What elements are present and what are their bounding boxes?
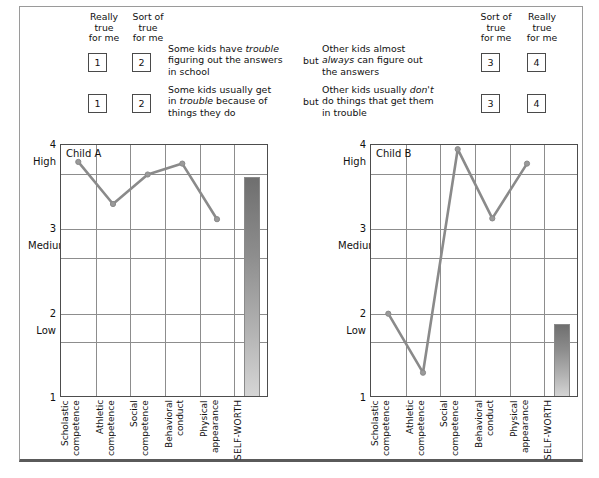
x-axis-label-1: Athletic competence <box>405 400 440 476</box>
data-point-0 <box>386 311 391 316</box>
item-2-left-stem: Some kids usually get in trouble because… <box>168 84 296 118</box>
chart-a-plot-area: Child A <box>60 144 268 397</box>
chart-a-y-axis: 1234HighMediumLow <box>30 144 60 397</box>
scale-header-sort-of-true-right: Sort of true for me <box>475 12 517 44</box>
response-box-1-item2[interactable]: 1 <box>88 94 107 113</box>
data-point-4 <box>524 161 529 166</box>
scale-header-really-true-left: Really true for me <box>84 12 124 44</box>
data-point-2 <box>145 172 150 177</box>
data-point-0 <box>76 159 81 164</box>
profile-line-series <box>371 145 578 397</box>
x-axis-label-4: Physical appearance <box>509 400 544 476</box>
x-axis-label-5: SELF-WORTH <box>543 400 578 476</box>
data-point-2 <box>455 147 460 152</box>
chart-a-title: Child A <box>66 148 101 159</box>
response-box-3-item2[interactable]: 3 <box>481 94 500 113</box>
chart-b-x-axis: Scholastic competenceAthletic competence… <box>370 400 578 478</box>
item-1-right-stem: Other kids almost always can figure out … <box>322 43 440 77</box>
data-point-3 <box>490 216 495 221</box>
chart-b-plot-area: Child B <box>370 144 578 397</box>
scale-header-really-true-right: Really true for me <box>521 12 563 44</box>
y-band-label-medium: Medium <box>28 240 60 251</box>
item-1-left-stem: Some kids have trouble figuring out the … <box>168 43 296 77</box>
y-band-label-low: Low <box>338 324 370 335</box>
y-band-label-medium: Medium <box>338 240 370 251</box>
chart-b-y-axis: 1234HighMediumLow <box>340 144 370 397</box>
item-1-connector: but <box>303 55 319 66</box>
item-1-left-stem-emphasis: trouble <box>245 43 279 54</box>
data-point-1 <box>110 201 115 206</box>
figure-page: Really true for me Sort of true for me S… <box>0 0 599 478</box>
scale-header-sort-of-true-left: Sort of true for me <box>128 12 168 44</box>
response-box-1-item1[interactable]: 1 <box>88 53 107 72</box>
y-tick-4: 4 <box>338 139 370 150</box>
self-worth-bar <box>244 177 260 397</box>
data-point-4 <box>214 217 219 222</box>
response-box-4-item1[interactable]: 4 <box>527 53 546 72</box>
x-axis-label-3: Behavioral conduct <box>474 400 509 476</box>
x-axis-label-2: Social competence <box>129 400 164 476</box>
y-tick-1: 1 <box>338 392 370 403</box>
y-tick-4: 4 <box>28 139 60 150</box>
data-point-3 <box>180 161 185 166</box>
y-tick-2: 2 <box>28 307 60 318</box>
data-point-1 <box>420 370 425 375</box>
y-tick-1: 1 <box>28 392 60 403</box>
y-tick-3: 3 <box>338 223 370 234</box>
response-box-2-item2[interactable]: 2 <box>132 94 151 113</box>
item-2-connector: but <box>303 96 319 107</box>
y-tick-3: 3 <box>28 223 60 234</box>
y-band-label-low: Low <box>28 324 60 335</box>
item-2-right-stem-emphasis: don't <box>410 84 434 95</box>
item-1-left-stem-part-a: Some kids have <box>168 43 245 54</box>
item-2-right-stem-part-a: Other kids usually <box>322 84 410 95</box>
chart-a-x-axis: Scholastic competenceAthletic competence… <box>60 400 268 478</box>
chart-b-title: Child B <box>376 148 411 159</box>
item-2-right-stem-part-b: do things that get them in trouble <box>322 95 434 117</box>
profile-line <box>388 149 527 373</box>
item-1-right-stem-part-a: Other kids almost <box>322 43 405 54</box>
item-1-left-stem-part-b: figuring out the answers in school <box>168 54 283 76</box>
y-band-label-high: High <box>338 155 370 166</box>
x-axis-label-0: Scholastic competence <box>370 400 405 476</box>
profile-line-series <box>61 145 268 397</box>
self-worth-bar <box>554 324 570 397</box>
x-axis-label-1: Athletic competence <box>95 400 130 476</box>
item-2-left-stem-emphasis: trouble <box>180 95 214 106</box>
questionnaire-header: Really true for me Sort of true for me S… <box>0 0 599 130</box>
x-axis-label-5: SELF-WORTH <box>233 400 268 476</box>
profile-line <box>78 162 217 219</box>
response-box-2-item1[interactable]: 2 <box>132 53 151 72</box>
response-box-4-item2[interactable]: 4 <box>527 94 546 113</box>
y-tick-2: 2 <box>338 307 370 318</box>
x-axis-label-4: Physical appearance <box>199 400 234 476</box>
item-2-right-stem: Other kids usually don't do things that … <box>322 84 440 118</box>
response-box-3-item1[interactable]: 3 <box>481 53 500 72</box>
x-axis-label-0: Scholastic competence <box>60 400 95 476</box>
x-axis-label-2: Social competence <box>439 400 474 476</box>
y-band-label-high: High <box>28 155 60 166</box>
x-axis-label-3: Behavioral conduct <box>164 400 199 476</box>
item-1-right-stem-emphasis: always <box>322 54 354 65</box>
